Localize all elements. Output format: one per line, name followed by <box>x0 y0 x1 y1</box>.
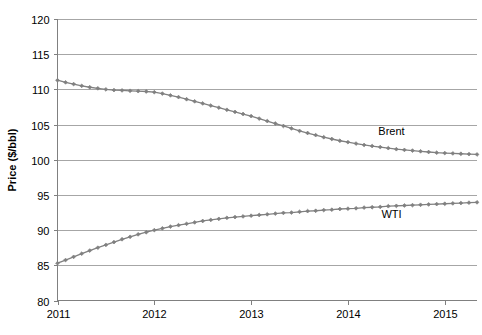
y-tick-label: 85 <box>37 260 49 272</box>
y-tick-label: 100 <box>31 155 49 167</box>
price-chart: 80859095100105110115120 2011201220132014… <box>0 0 482 335</box>
series-label-wti: WTI <box>381 208 401 220</box>
x-tick-label: 2011 <box>47 308 71 320</box>
x-tick-label: 2013 <box>239 308 263 320</box>
x-tick-label: 2014 <box>336 308 360 320</box>
y-tick-label: 80 <box>37 296 49 308</box>
y-tick-label: 120 <box>31 14 49 26</box>
series-label-brent: Brent <box>378 125 404 137</box>
y-axis-title: Price ($/bbl) <box>6 128 18 191</box>
x-tick-label: 2015 <box>433 308 457 320</box>
y-tick-label: 105 <box>31 120 49 132</box>
y-tick-label: 115 <box>32 49 50 61</box>
chart-canvas: 80859095100105110115120 2011201220132014… <box>0 0 482 335</box>
y-tick-label: 95 <box>37 190 49 202</box>
x-tick-label: 2012 <box>142 308 166 320</box>
chart-background <box>0 0 482 335</box>
y-tick-label: 90 <box>37 225 49 237</box>
y-tick-label: 110 <box>32 84 50 96</box>
